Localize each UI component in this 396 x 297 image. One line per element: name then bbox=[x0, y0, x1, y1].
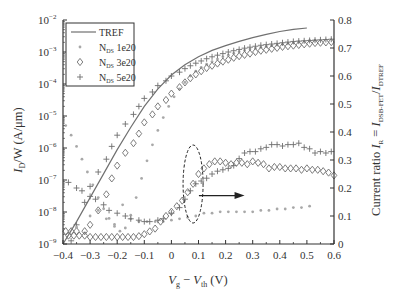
legend: TREFNDS 1e20NDS 3e20NDS 5e20 bbox=[66, 23, 136, 86]
diamond-marker bbox=[142, 231, 148, 238]
diamond-marker bbox=[326, 169, 332, 176]
diamond-marker bbox=[215, 60, 221, 67]
plus-marker bbox=[269, 41, 275, 47]
plus-marker bbox=[160, 216, 166, 222]
asterisk-marker bbox=[124, 227, 127, 230]
asterisk-marker bbox=[102, 207, 105, 210]
asterisk-marker bbox=[146, 159, 149, 162]
diamond-marker bbox=[247, 50, 253, 57]
asterisk-marker bbox=[184, 81, 187, 84]
diamond-marker bbox=[236, 53, 242, 60]
right-y-tick-label: 0.6 bbox=[338, 70, 352, 82]
asterisk-marker bbox=[276, 208, 279, 211]
diamond-marker bbox=[123, 149, 129, 156]
right-y-tick-label: 0.4 bbox=[338, 126, 352, 138]
plus-marker bbox=[274, 40, 280, 46]
diamond-marker bbox=[98, 233, 104, 240]
asterisk-marker bbox=[167, 105, 170, 108]
legend-entry-label: NDS 5e20 bbox=[99, 72, 136, 84]
plus-marker bbox=[258, 146, 264, 152]
plus-marker bbox=[155, 83, 161, 89]
asterisk-marker bbox=[135, 196, 138, 199]
diamond-marker bbox=[242, 51, 248, 58]
diamond-marker bbox=[147, 228, 153, 235]
plus-marker bbox=[236, 46, 242, 52]
asterisk-marker bbox=[89, 215, 92, 218]
left-y-axis-label-text: ID/W (A/μm) bbox=[11, 107, 27, 173]
asterisk-marker bbox=[97, 209, 100, 212]
asterisk-marker bbox=[235, 210, 238, 213]
left-y-tick-label: 10−5 bbox=[38, 109, 57, 122]
series-n-ds-5e20-ratio- bbox=[65, 140, 334, 224]
diamond-marker bbox=[266, 165, 272, 172]
asterisk-marker bbox=[86, 171, 89, 174]
diamond-marker bbox=[299, 166, 305, 173]
diamond-marker bbox=[87, 233, 93, 240]
x-tick-label: 0 bbox=[169, 249, 175, 261]
plus-marker bbox=[122, 121, 128, 127]
diamond-marker bbox=[142, 119, 148, 126]
plus-marker bbox=[114, 210, 120, 216]
diamond-marker bbox=[114, 162, 120, 169]
left-y-tick-label: 10−2 bbox=[38, 13, 57, 26]
right-y-tick-label: 0.7 bbox=[338, 42, 352, 54]
diamond-marker bbox=[109, 233, 115, 240]
plus-marker bbox=[269, 142, 275, 148]
asterisk-marker bbox=[251, 210, 254, 213]
right-y-tick-label: 0.5 bbox=[338, 98, 352, 110]
asterisk-marker bbox=[259, 209, 262, 212]
plus-marker bbox=[209, 171, 215, 177]
asterisk-marker bbox=[211, 212, 214, 215]
left-y-tick-label: 10−6 bbox=[38, 141, 57, 154]
diamond-marker bbox=[74, 228, 80, 235]
diamond-marker bbox=[293, 165, 299, 172]
x-tick-label: 0.6 bbox=[327, 249, 341, 261]
plus-marker bbox=[225, 49, 231, 55]
asterisk-marker bbox=[91, 183, 94, 186]
diamond-marker bbox=[136, 233, 142, 240]
diamond-marker bbox=[125, 233, 131, 240]
plus-marker bbox=[280, 143, 286, 149]
left-y-tick-label: 10−3 bbox=[38, 45, 57, 58]
chart: −0.4−0.3−0.2−0.100.10.20.30.40.50.610−21… bbox=[0, 0, 396, 297]
diamond-marker bbox=[226, 56, 232, 63]
x-tick-label: 0.2 bbox=[219, 249, 233, 261]
diamond-marker bbox=[131, 233, 137, 240]
diamond-marker bbox=[272, 163, 278, 170]
asterisk-marker bbox=[97, 196, 100, 199]
plus-marker bbox=[103, 156, 109, 162]
plus-marker bbox=[214, 52, 220, 58]
plus-marker bbox=[106, 207, 112, 213]
plus-marker bbox=[128, 216, 134, 222]
diamond-marker bbox=[71, 232, 77, 239]
diamond-marker bbox=[217, 158, 223, 165]
plus-marker bbox=[101, 202, 107, 208]
asterisk-marker bbox=[300, 206, 303, 209]
plus-marker bbox=[296, 140, 302, 146]
plus-marker bbox=[114, 132, 120, 138]
plus-marker bbox=[312, 150, 318, 156]
plus-marker bbox=[136, 217, 142, 223]
asterisk-marker bbox=[268, 209, 271, 212]
right-y-axis-label: Current ratio IR = IDSB-FET/IDTREF bbox=[369, 64, 385, 216]
diamond-marker bbox=[152, 225, 158, 232]
plus-marker bbox=[296, 38, 302, 44]
asterisk-marker bbox=[308, 205, 311, 208]
diamond-marker bbox=[150, 111, 156, 118]
asterisk-marker bbox=[194, 215, 197, 218]
right-y-tick-label: 0 bbox=[338, 238, 344, 250]
asterisk-marker bbox=[292, 206, 295, 209]
diamond-marker bbox=[207, 161, 213, 168]
asterisk-marker bbox=[162, 116, 165, 119]
x-tick-label: 0.3 bbox=[246, 249, 260, 261]
plus-marker bbox=[263, 144, 269, 150]
plus-marker bbox=[290, 38, 296, 44]
plus-marker bbox=[328, 149, 334, 155]
plus-marker bbox=[317, 149, 323, 155]
diamond-marker bbox=[304, 165, 310, 172]
plus-marker bbox=[252, 43, 258, 49]
plus-marker bbox=[74, 185, 80, 191]
asterisk-marker bbox=[113, 223, 116, 226]
diamond-marker bbox=[196, 170, 202, 177]
plus-marker bbox=[280, 40, 286, 46]
